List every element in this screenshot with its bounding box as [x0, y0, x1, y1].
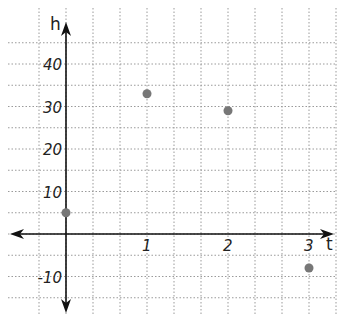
scatter-plot: ht 12340302010-10 — [0, 0, 337, 315]
data-points — [62, 89, 314, 272]
y-axis-label: h — [50, 14, 61, 34]
data-point — [62, 208, 71, 217]
y-tick-label: -10 — [38, 269, 63, 287]
y-tick-label: 30 — [43, 99, 62, 117]
x-axis-label: t — [326, 234, 333, 254]
data-point — [224, 106, 233, 115]
data-point — [305, 264, 314, 273]
y-tick-label: 10 — [43, 184, 62, 202]
y-tick-label: 20 — [43, 141, 62, 159]
x-tick-label: 3 — [304, 237, 314, 255]
x-tick-label: 2 — [223, 237, 233, 255]
y-tick-label: 40 — [43, 56, 62, 74]
data-point — [143, 89, 152, 98]
tick-labels: 12340302010-10 — [38, 56, 314, 287]
x-tick-label: 1 — [142, 237, 152, 255]
